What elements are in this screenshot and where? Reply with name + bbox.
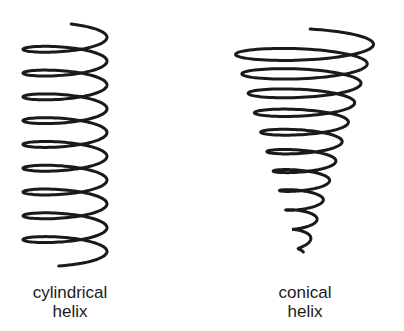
cylindrical-helix-drawing xyxy=(23,24,107,266)
helix-diagram xyxy=(0,0,404,331)
conical-label-line1: conical xyxy=(245,283,365,302)
conical-label-line2: helix xyxy=(245,302,365,321)
conical-helix-label: conical helix xyxy=(245,283,365,321)
conical-helix-drawing xyxy=(236,29,374,252)
cylindrical-helix-label: cylindrical helix xyxy=(10,283,130,321)
cylindrical-label-line2: helix xyxy=(10,302,130,321)
cylindrical-label-line1: cylindrical xyxy=(10,283,130,302)
